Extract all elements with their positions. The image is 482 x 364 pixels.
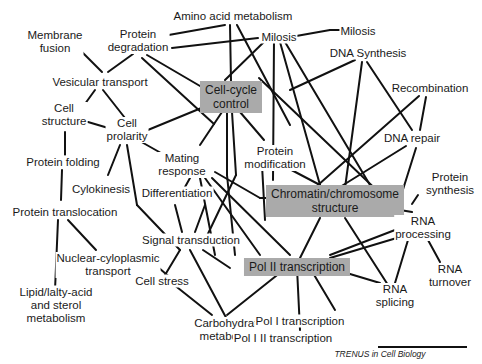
hub-cell-cycle-control[interactable]: Cell-cycle control [200, 81, 262, 113]
node-lipid-metabolism[interactable]: Lipid/lalty-acid and sterol metabolism [19, 286, 94, 325]
node-protein-translocation[interactable]: Protein translocation [12, 206, 119, 219]
node-mating-response[interactable]: Mating response [157, 152, 206, 178]
node-cell-stress[interactable]: Cell stress [134, 275, 190, 288]
node-protein-synthesis[interactable]: Protein synthesis [425, 171, 475, 197]
node-protein-modification[interactable]: Protein modification [243, 145, 306, 171]
node-cylokinesis[interactable]: Cylokinesis [71, 183, 131, 196]
hub-label: Cell-cycle control [205, 83, 257, 111]
figure-credit: TRENUS in Cell Biology [334, 349, 425, 359]
node-rna-processing[interactable]: RNA processing [394, 215, 452, 241]
hub-label: Pol II transcription [249, 260, 345, 274]
node-cell-prolarity[interactable]: Cell prolarity [106, 117, 149, 143]
node-amino-acid-metabolism[interactable]: Amino acid metabolism [173, 10, 294, 23]
node-dna-repair[interactable]: DNA repair [383, 132, 441, 145]
node-protein-folding[interactable]: Protein folding [25, 156, 101, 169]
node-cell-structure[interactable]: Cell structure [41, 102, 88, 128]
node-recombination[interactable]: Recombination [391, 82, 470, 95]
node-signal-transduction[interactable]: Signal transduction [141, 234, 241, 247]
credit-rule [378, 346, 467, 348]
hub-chromatin-structure[interactable]: Chromatin/chromosome structure [266, 185, 404, 217]
node-pol-i-ii-transcription[interactable]: Pol I II transcription [233, 332, 333, 345]
node-differentiation[interactable]: Differentiation [141, 187, 214, 200]
node-pol-i-transcription[interactable]: Pol I transcription [255, 315, 346, 328]
node-dna-synthesis[interactable]: DNA Synthesis [329, 47, 408, 60]
node-rna-turnover[interactable]: RNA turnover [428, 263, 472, 289]
node-membrane-fusion[interactable]: Membrane fusion [27, 29, 84, 55]
node-vesicular-transport[interactable]: Vesicular transport [51, 76, 148, 89]
node-milosis-center[interactable]: Milosis [260, 31, 297, 44]
node-protein-degradation[interactable]: Protein degradation [107, 28, 170, 54]
hub-pol-ii-transcription[interactable]: Pol II transcription [244, 258, 350, 276]
node-milosis-right[interactable]: Milosis [339, 25, 376, 38]
hub-label: Chromatin/chromosome structure [271, 187, 399, 215]
node-rna-splicing[interactable]: RNA splicing [375, 283, 415, 309]
